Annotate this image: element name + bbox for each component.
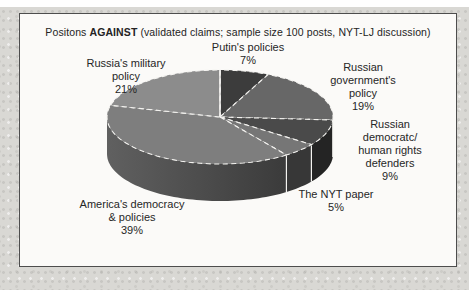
- pie-label-nyt-paper: The NYT paper 5%: [298, 188, 373, 214]
- pie-label-russias-military-policy: Russia's military policy 21%: [86, 57, 165, 96]
- pie-label-americas-democracy: America's democracy & policies 39%: [80, 198, 185, 237]
- pie-label-russian-democratic-defenders: Russian democratc/ human rights defender…: [357, 118, 423, 183]
- pie-label-putins-policies: Putin's policies 7%: [212, 41, 284, 67]
- chart-frame: Positons AGAINST (validated claims; samp…: [19, 13, 457, 267]
- pie-label-russian-governments-policy: Russian government's policy 19%: [317, 61, 410, 113]
